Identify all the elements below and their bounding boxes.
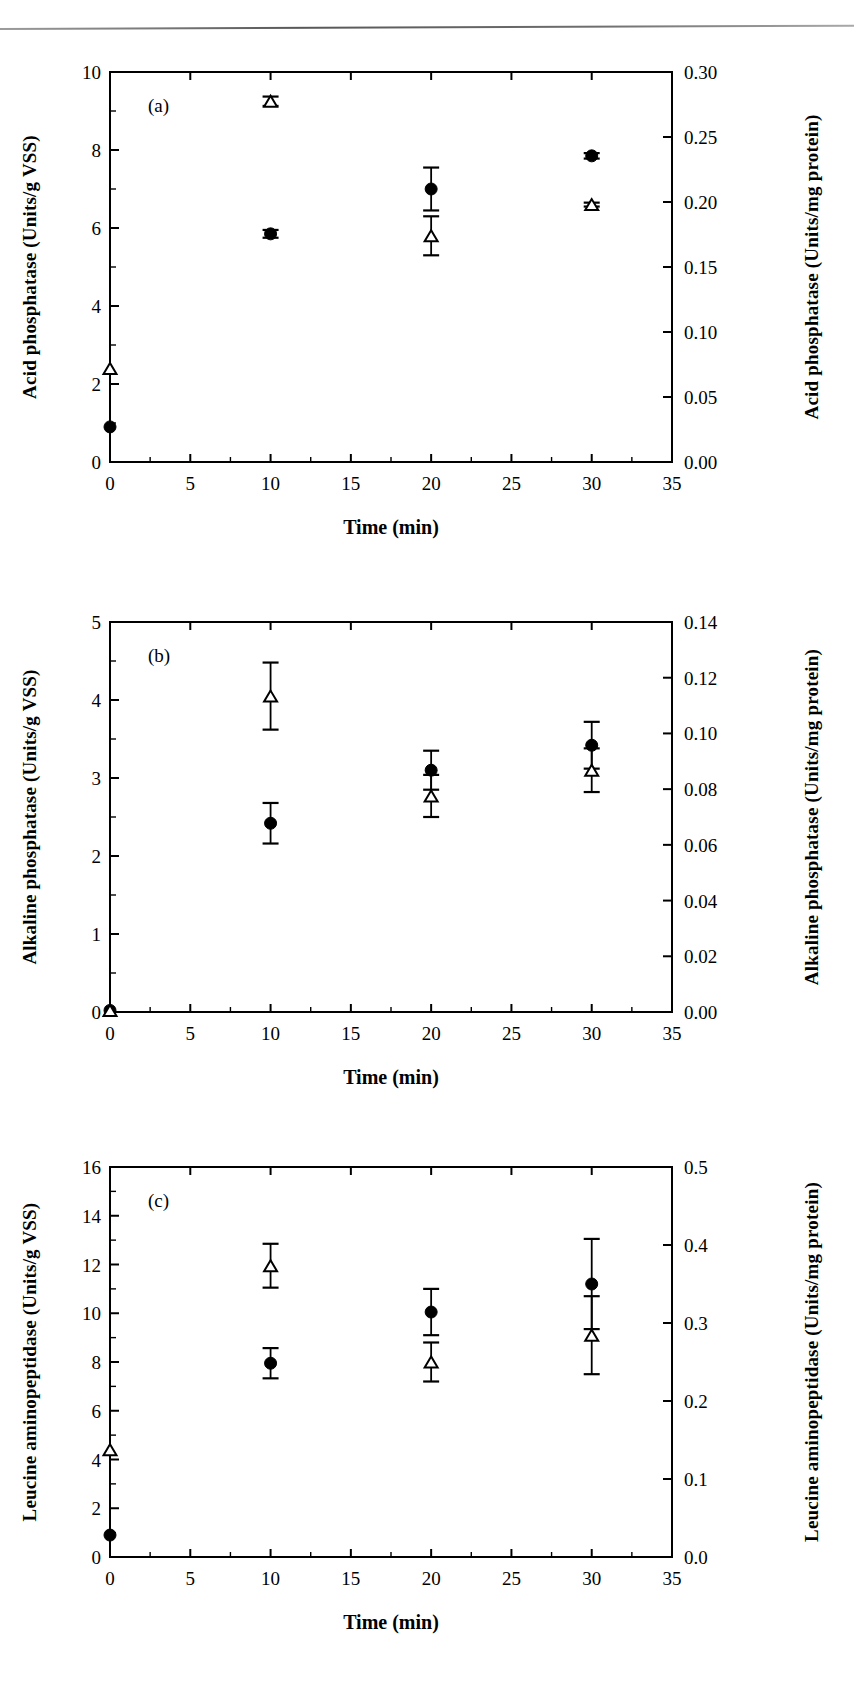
data-point-triangle (585, 199, 598, 210)
y-tick-label-right: 0.06 (684, 835, 717, 856)
page-edge-scan-artifact (0, 25, 854, 30)
y-tick-label-left: 2 (92, 1498, 102, 1519)
y-tick-label-left: 3 (92, 768, 102, 789)
y-tick-label-left: 12 (82, 1255, 101, 1276)
y-tick-label-right: 0.05 (684, 387, 717, 408)
series-filled-circle (104, 722, 600, 1017)
y-tick-label-left: 1 (92, 924, 102, 945)
y-tick-label-left: 8 (92, 140, 102, 161)
data-point-triangle (585, 765, 598, 776)
y-axis-title-left: Leucine aminopeptidase (Units/g VSS) (19, 1203, 41, 1522)
y-tick-label-left: 4 (92, 690, 102, 711)
y-tick-label-right: 0.0 (684, 1547, 708, 1568)
data-point-triangle (425, 230, 438, 241)
y-tick-label-right: 0.00 (684, 1002, 717, 1023)
data-point-circle (104, 1529, 116, 1541)
axis-frame (110, 622, 672, 1012)
y-tick-label-right: 0.10 (684, 723, 717, 744)
data-point-circle (586, 1278, 598, 1290)
y-tick-label-left: 4 (92, 296, 102, 317)
x-tick-label: 5 (186, 473, 196, 494)
y-axis-left: 0246810 (82, 62, 119, 473)
x-tick-label: 35 (663, 1023, 682, 1044)
series-open-triangle (104, 663, 600, 1016)
chart-svg-b: 051015202530350123450.000.020.040.060.08… (0, 600, 854, 1120)
y-tick-label-left: 0 (92, 1002, 102, 1023)
x-tick-label: 0 (105, 1568, 115, 1589)
chart-svg-a: 0510152025303502468100.000.050.100.150.2… (0, 50, 854, 570)
x-tick-label: 25 (502, 473, 521, 494)
series-filled-circle (104, 150, 600, 433)
y-tick-label-right: 0.15 (684, 257, 717, 278)
chart-svg-c: 0510152025303502468101214160.00.10.20.30… (0, 1145, 854, 1665)
y-tick-label-right: 0.25 (684, 127, 717, 148)
y-axis-title-right: Leucine aminopeptidase (Units/mg protein… (801, 1182, 823, 1542)
x-tick-label: 20 (422, 1023, 441, 1044)
chart-panel-b: 051015202530350123450.000.020.040.060.08… (0, 600, 854, 1120)
y-tick-label-left: 0 (92, 452, 102, 473)
y-tick-label-right: 0.04 (684, 891, 718, 912)
y-tick-label-right: 0.2 (684, 1391, 708, 1412)
y-tick-label-left: 16 (82, 1157, 101, 1178)
y-tick-label-right: 0.08 (684, 779, 717, 800)
data-point-triangle (104, 363, 117, 374)
panel-tag: (b) (148, 645, 170, 667)
x-tick-label: 30 (582, 1023, 601, 1044)
y-tick-label-right: 0.12 (684, 668, 717, 689)
data-point-triangle (264, 691, 277, 702)
x-tick-label: 10 (261, 1023, 280, 1044)
series-open-triangle (104, 1244, 600, 1455)
x-tick-label: 15 (341, 1568, 360, 1589)
x-tick-label: 25 (502, 1023, 521, 1044)
data-point-circle (265, 228, 277, 240)
x-tick-label: 30 (582, 1568, 601, 1589)
y-axis-title-right: Alkaline phosphatase (Units/mg protein) (801, 649, 823, 985)
data-point-circle (425, 1306, 437, 1318)
panel-tag: (a) (148, 95, 169, 117)
x-tick-label: 0 (105, 1023, 115, 1044)
y-axis-title-right: Acid phosphatase (Units/mg protein) (801, 115, 823, 420)
x-axis: 05101520253035 (105, 72, 681, 494)
y-tick-label-right: 0.30 (684, 62, 717, 83)
y-tick-label-left: 5 (92, 612, 102, 633)
x-tick-label: 5 (186, 1023, 196, 1044)
data-point-triangle (104, 1444, 117, 1455)
chart-panel-a: 0510152025303502468100.000.050.100.150.2… (0, 50, 854, 570)
data-point-circle (265, 1357, 277, 1369)
x-axis-title: Time (min) (343, 1066, 439, 1089)
axis-frame (110, 1167, 672, 1557)
y-tick-label-right: 0.3 (684, 1313, 708, 1334)
data-point-triangle (425, 1357, 438, 1368)
y-tick-label-left: 8 (92, 1352, 102, 1373)
x-tick-label: 20 (422, 1568, 441, 1589)
x-tick-label: 35 (663, 1568, 682, 1589)
y-axis-left: 012345 (92, 612, 120, 1023)
chart-panel-c: 0510152025303502468101214160.00.10.20.30… (0, 1145, 854, 1665)
x-tick-label: 15 (341, 473, 360, 494)
series-open-triangle (104, 96, 600, 374)
data-point-triangle (264, 1260, 277, 1271)
y-tick-label-right: 0.4 (684, 1235, 708, 1256)
data-point-triangle (585, 1330, 598, 1341)
x-tick-label: 30 (582, 473, 601, 494)
y-tick-label-right: 0.00 (684, 452, 717, 473)
data-point-circle (586, 150, 598, 162)
x-tick-label: 0 (105, 473, 115, 494)
y-axis-title-left: Alkaline phosphatase (Units/g VSS) (19, 669, 41, 964)
x-axis-title: Time (min) (343, 1611, 439, 1634)
data-point-circle (425, 183, 437, 195)
y-tick-label-right: 0.5 (684, 1157, 708, 1178)
y-tick-label-left: 2 (92, 374, 102, 395)
y-axis-title-left: Acid phosphatase (Units/g VSS) (19, 135, 41, 399)
x-tick-label: 20 (422, 473, 441, 494)
y-tick-label-left: 6 (92, 218, 102, 239)
series-filled-circle (104, 1239, 600, 1541)
x-tick-label: 15 (341, 1023, 360, 1044)
y-tick-label-left: 4 (92, 1450, 102, 1471)
y-tick-label-right: 0.14 (684, 612, 718, 633)
y-tick-label-right: 0.20 (684, 192, 717, 213)
data-point-triangle (425, 790, 438, 801)
axis-frame (110, 72, 672, 462)
x-axis: 05101520253035 (105, 1167, 681, 1589)
y-tick-label-left: 6 (92, 1401, 102, 1422)
